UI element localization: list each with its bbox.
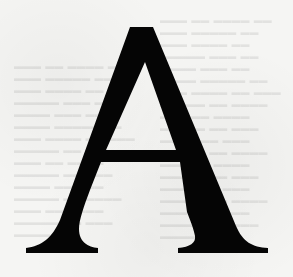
letter-a-glyph: A	[0, 0, 293, 277]
scanned-page: ▬▬▬ ▬▬ ▬▬▬▬ ▬▬ ▬▬▬ ▬▬▬▬▬ ▬▬ ▬▬▬ ▬▬▬▬ ▬▬ …	[0, 0, 293, 277]
